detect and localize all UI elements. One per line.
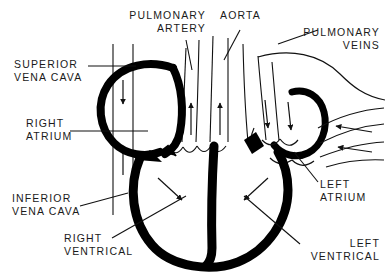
label-right-atrium: RIGHT ATRIUM <box>26 117 72 142</box>
label-aorta: AORTA <box>220 9 261 22</box>
label-right-ventrical: RIGHT VENTRICAL <box>64 232 133 257</box>
label-pulmonary-artery: PULMONARY ARTERY <box>108 9 206 34</box>
label-superior-vena-cava: SUPERIOR VENA CAVA <box>14 58 82 83</box>
label-left-ventrical: LEFT VENTRICAL <box>276 237 380 262</box>
label-left-atrium: LEFT ATRIUM <box>320 178 366 203</box>
label-inferior-vena-cava: INFERIOR VENA CAVA <box>12 192 80 217</box>
label-pulmonary-veins: PULMONARY VEINS <box>272 26 380 51</box>
heart-diagram: SUPERIOR VENA CAVA RIGHT ATRIUM INFERIOR… <box>0 0 385 279</box>
